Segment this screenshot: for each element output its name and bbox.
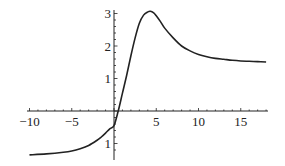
tick-labels: −10−5510151123 <box>19 6 247 151</box>
y-tick-label: 3 <box>105 6 112 21</box>
x-tick-label: 5 <box>153 114 160 129</box>
line-chart: −10−5510151123 <box>0 0 285 166</box>
x-tick-label: −10 <box>19 114 39 129</box>
x-tick-label: 10 <box>192 114 205 129</box>
series-line <box>30 11 267 155</box>
x-tick-label: 15 <box>234 114 247 129</box>
y-tick-label: 1 <box>105 136 112 151</box>
axis-ticks <box>30 14 267 151</box>
y-tick-label: 1 <box>105 71 112 86</box>
y-tick-label: 2 <box>105 39 112 54</box>
axes <box>27 10 268 160</box>
data-series <box>30 11 267 155</box>
x-tick-label: −5 <box>65 114 79 129</box>
